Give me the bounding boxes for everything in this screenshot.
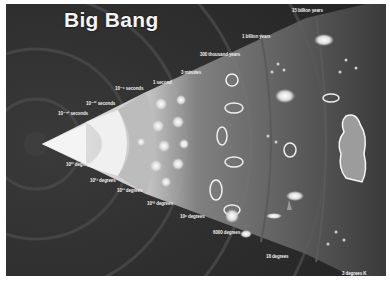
- page-title: Big Bang: [64, 8, 159, 32]
- time-label: 1 billion years: [242, 34, 271, 39]
- time-label: 1 second: [153, 80, 172, 85]
- temperature-label: 10²⁷ degrees: [90, 178, 116, 183]
- time-label: 3 minutes: [181, 70, 201, 75]
- time-label: 10⁻⁶ seconds: [115, 86, 143, 91]
- time-label: 10⁻⁴³ seconds: [58, 111, 88, 116]
- temperature-label: 18 degrees: [266, 254, 289, 259]
- temperature-label: 6000 degrees: [213, 230, 240, 235]
- time-label: 10⁻³² seconds: [86, 101, 115, 106]
- temperature-label: 3 degrees K: [342, 271, 366, 276]
- cosmic-evolution-graphic: [6, 4, 386, 276]
- temperature-label: 10³² degrees: [66, 162, 91, 167]
- temperature-label: 10¹⁰ degrees: [147, 201, 173, 206]
- time-label: 15 billion years: [292, 8, 323, 13]
- time-label: 300 thousand years: [200, 52, 240, 57]
- big-bang-illustration: Big Bang 10⁻⁴³ seconds 10⁻³² seconds 10⁻…: [6, 4, 386, 276]
- temperature-label: 10⁹ degrees: [180, 214, 205, 219]
- temperature-label: 10¹³ degrees: [117, 188, 142, 193]
